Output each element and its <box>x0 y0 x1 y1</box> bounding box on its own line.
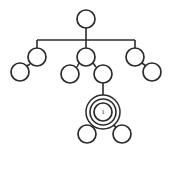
branch-middle-node[interactable] <box>77 48 95 66</box>
node-middle-right[interactable] <box>94 65 112 83</box>
tree-diagram-svg: 1 <box>0 0 173 170</box>
selected-node-label: 1 <box>101 108 105 116</box>
branch-left-node[interactable] <box>28 48 46 66</box>
tree-diagram-canvas: 1 <box>0 0 173 170</box>
root-node[interactable] <box>77 10 95 28</box>
leaf-far-left[interactable] <box>11 63 29 81</box>
leaf-far-right[interactable] <box>143 63 161 81</box>
leaf-selected-right[interactable] <box>113 125 131 143</box>
selected-node-group[interactable]: 1 <box>86 95 120 129</box>
leaf-middle-left[interactable] <box>61 65 79 83</box>
edge-branch-mid-to-right <box>93 63 96 67</box>
branch-right-node[interactable] <box>126 48 144 66</box>
leaf-selected-left[interactable] <box>78 125 96 143</box>
